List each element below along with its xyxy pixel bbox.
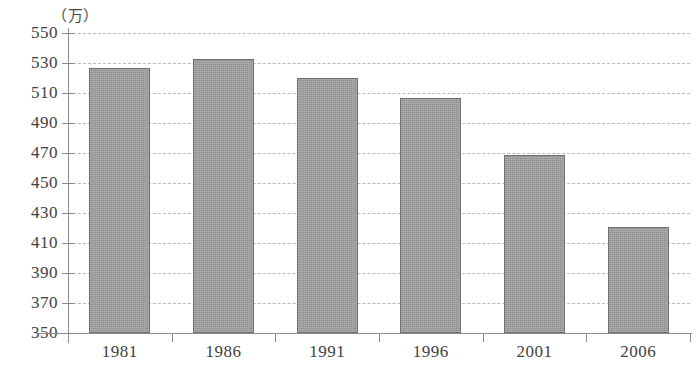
x-axis-tick-mark: [275, 333, 276, 342]
x-axis-tick-label: 1996: [413, 342, 449, 362]
y-axis-tick-label: 410: [2, 233, 58, 253]
y-axis-tick-label: 390: [2, 263, 58, 283]
y-axis-tick-label: 450: [2, 173, 58, 193]
y-axis-tick-mark: [62, 243, 74, 244]
gridline: [68, 273, 690, 274]
y-axis-tick-mark: [62, 123, 74, 124]
y-axis-tick-label: 430: [2, 203, 58, 223]
y-axis-tick-mark: [62, 183, 74, 184]
y-axis-tick-mark: [62, 213, 74, 214]
gridline: [68, 33, 690, 34]
y-axis-tick-label: 490: [2, 113, 58, 133]
bar: [297, 78, 358, 333]
y-axis-tick-label: 510: [2, 83, 58, 103]
gridline: [68, 183, 690, 184]
gridline: [68, 213, 690, 214]
gridline: [68, 243, 690, 244]
x-axis-tick-mark: [483, 333, 484, 342]
x-axis-tick-mark: [690, 333, 691, 342]
bar: [89, 68, 150, 334]
gridline: [68, 63, 690, 64]
y-axis-tick-mark: [62, 153, 74, 154]
bar-chart: （万） 550530510490470450430410390370350 19…: [0, 0, 698, 372]
x-axis-line: [36, 333, 692, 334]
gridline: [68, 303, 690, 304]
bar: [608, 227, 669, 334]
y-axis-tick-mark: [62, 93, 74, 94]
y-axis-unit-label: （万）: [52, 4, 99, 25]
x-axis-tick-label: 2006: [620, 342, 656, 362]
x-axis-tick-mark: [586, 333, 587, 342]
x-axis-tick-label: 2001: [517, 342, 553, 362]
y-axis-tick-label: 370: [2, 293, 58, 313]
y-axis-tick-mark: [62, 33, 74, 34]
gridline: [68, 153, 690, 154]
x-axis-tick-label: 1991: [309, 342, 345, 362]
y-axis-tick-label: 470: [2, 143, 58, 163]
bar: [504, 155, 565, 334]
bar: [400, 98, 461, 334]
y-axis-tick-mark: [62, 63, 74, 64]
bar: [193, 59, 254, 334]
gridline: [68, 123, 690, 124]
x-axis-tick-mark: [379, 333, 380, 342]
y-axis-tick-mark: [62, 273, 74, 274]
y-axis-tick-label: 530: [2, 53, 58, 73]
y-axis-tick-mark: [62, 333, 74, 334]
plot-area: [68, 33, 690, 333]
gridline: [68, 93, 690, 94]
x-axis-tick-label: 1986: [206, 342, 242, 362]
y-axis-tick-label: 550: [2, 23, 58, 43]
y-axis-tick-labels: 550530510490470450430410390370350: [0, 0, 58, 372]
x-axis-tick-label: 1981: [102, 342, 138, 362]
y-axis-tick-mark: [62, 303, 74, 304]
x-axis-tick-mark: [172, 333, 173, 342]
